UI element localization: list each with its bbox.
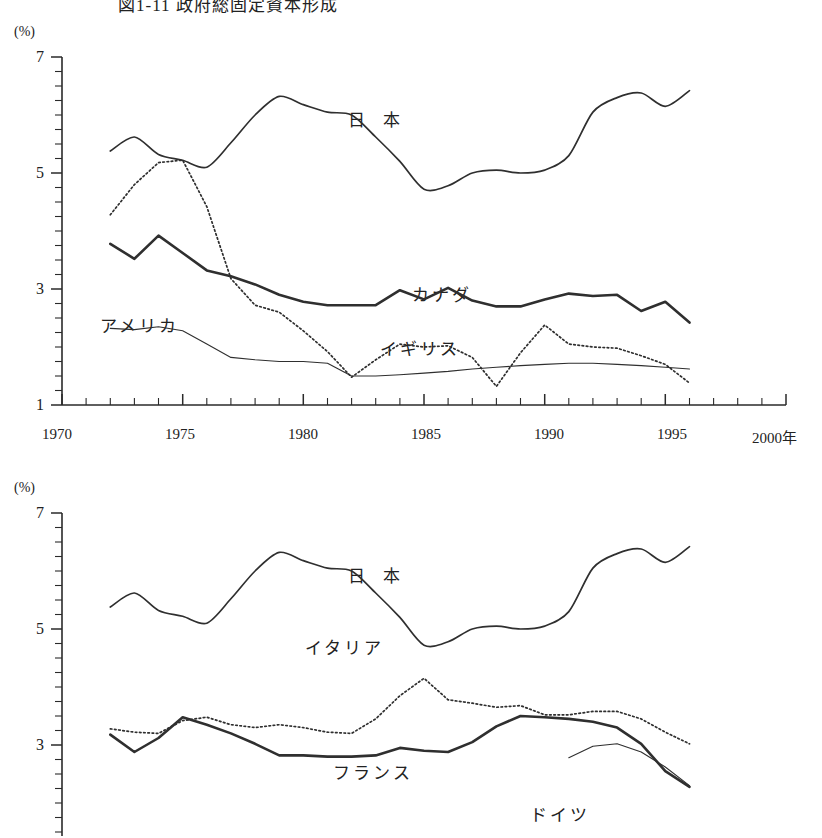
chart-lower: (%) 7 5 3 日 本 イタリア フランス ドイツ (0, 480, 822, 838)
series-group (110, 91, 689, 387)
series-line-フランス (110, 716, 689, 787)
series-line-カナダ (110, 236, 689, 323)
series-group (110, 547, 689, 787)
series-line-日 本 (110, 91, 689, 191)
chart-lower-plot (0, 480, 822, 838)
series-line-日 本 (110, 547, 689, 647)
axis-group (51, 57, 786, 405)
chart-upper: (%) 7 5 3 1 1970 1975 1980 1985 1990 199… (0, 24, 822, 476)
series-line-イタリア (110, 678, 689, 744)
series-line-アメリカ (110, 327, 689, 376)
chart-upper-plot (0, 24, 822, 476)
figure-page: 図1-11 政府総固定資本形成 (%) 7 5 3 1 1970 1975 19… (0, 0, 822, 838)
axis-group (51, 513, 62, 836)
series-line-ドイツ (569, 744, 690, 786)
series-line-イギリス (110, 160, 689, 386)
figure-title: 図1-11 政府総固定資本形成 (118, 0, 338, 16)
